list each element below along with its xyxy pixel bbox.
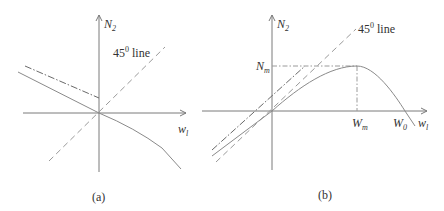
y-axis-label-b: N2: [276, 17, 289, 33]
caption-a: (a): [92, 190, 105, 204]
caption-b: (b): [318, 188, 332, 202]
panel-a: N2 450 line wl (a): [18, 15, 189, 204]
y-axis-label-a: N2: [103, 17, 116, 33]
panel-b: N2 450 line Nm Wm W0 wl (b): [202, 15, 429, 202]
dashdot-line-b: [212, 66, 305, 150]
x-axis-label-a: wl: [178, 122, 189, 138]
x-axis-label-b: wl: [418, 116, 429, 132]
line-45deg-b: [216, 29, 356, 162]
diagram-canvas: N2 450 line wl (a) N2 450 line Nm Wm W0 …: [0, 0, 444, 211]
line-45-label-a: 450 line: [113, 45, 150, 60]
w0-label: W0: [393, 116, 407, 132]
dashdot-line-a: [25, 66, 99, 98]
line-45-label-b: 450 line: [358, 21, 395, 36]
line-45deg-a: [49, 47, 165, 161]
wm-label: Wm: [352, 116, 368, 132]
nm-label: Nm: [255, 59, 270, 75]
